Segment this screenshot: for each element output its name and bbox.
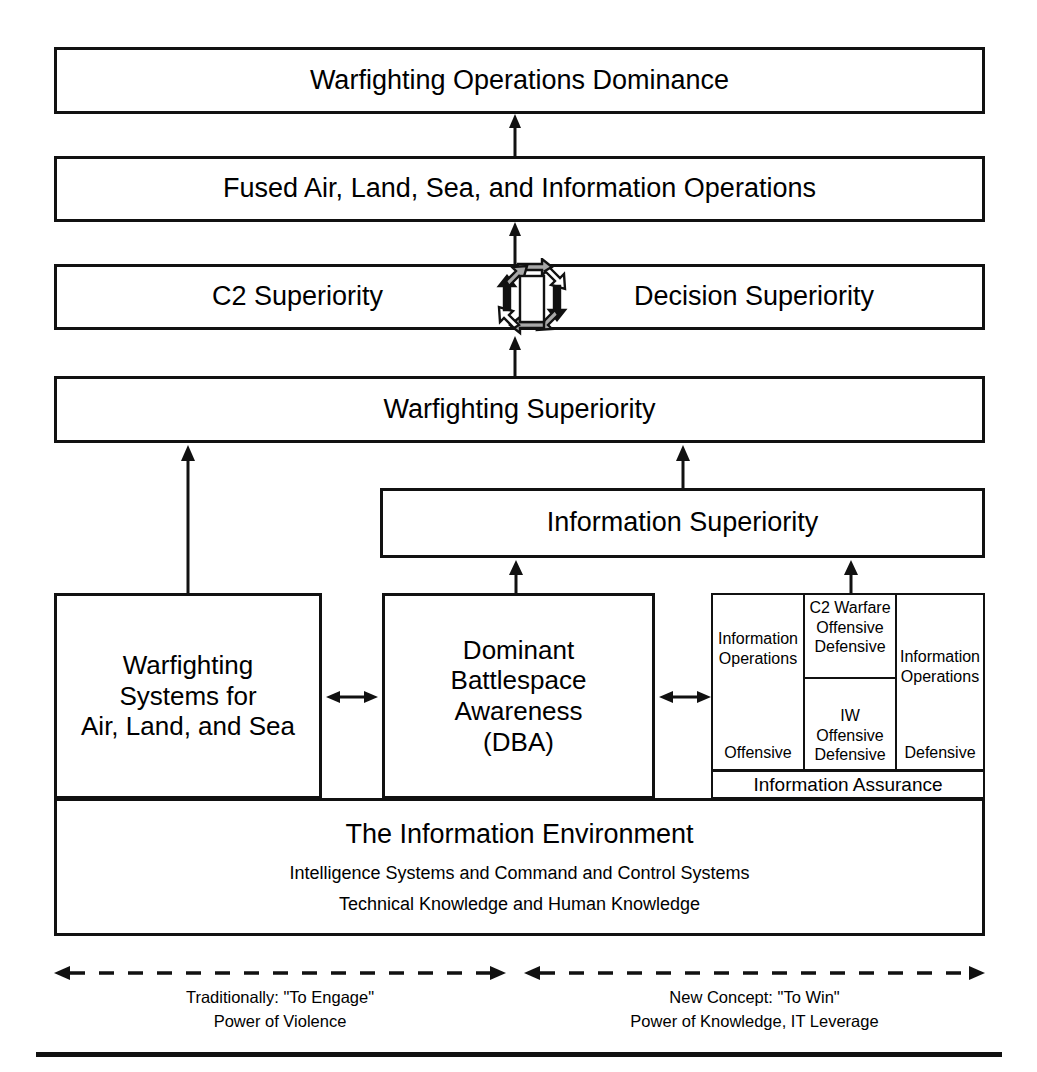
box-warfighting-operations-dominance: Warfighting Operations Dominance: [54, 47, 985, 114]
information-environment-line-1: Intelligence Systems and Command and Con…: [289, 863, 749, 884]
box-dominant-battlespace-awareness: Dominant Battlespace Awareness (DBA): [382, 593, 655, 799]
box-fused-operations: Fused Air, Land, Sea, and Information Op…: [54, 156, 985, 222]
information-environment-text: The Information Environment Intelligence…: [57, 819, 982, 915]
arrow-level4-to-level3: [504, 336, 526, 378]
info-ops-right-top: Information Operations: [897, 647, 983, 686]
box-info-ops-defensive: Information Operations Defensive: [895, 593, 985, 771]
footer-caption-right: New Concept: "To Win" Power of Knowledge…: [524, 986, 985, 1034]
info-ops-left-line-2: Operations: [713, 649, 803, 669]
dba-line-1: Dominant: [463, 635, 574, 666]
c2-warfare-line-2: Offensive: [805, 618, 895, 638]
warfighting-superiority-label: Warfighting Superiority: [383, 394, 655, 426]
arrow-level2-to-level1: [504, 114, 526, 156]
dba-line-2: Battlespace: [451, 665, 587, 696]
information-assurance-label: Information Assurance: [753, 773, 942, 796]
warfighting-systems-line-3: Air, Land, and Sea: [81, 711, 295, 742]
iw-line-3: Defensive: [805, 745, 895, 765]
arrow-info-ops-to-information-superiority: [840, 560, 862, 595]
box-c2-warfare: C2 Warfare Offensive Defensive: [803, 593, 897, 679]
double-headed-arrow-icon-systems-dba: [326, 686, 378, 708]
warfighting-systems-line-2: Systems for: [119, 681, 256, 712]
info-ops-left-line-3: Offensive: [713, 743, 803, 763]
arrow-information-superiority-to-warfighting-superiority: [672, 445, 694, 489]
bottom-divider-rule: [36, 1052, 1002, 1057]
fused-operations-label: Fused Air, Land, Sea, and Information Op…: [223, 173, 816, 205]
circular-feedback-arrows-icon: [492, 258, 572, 340]
double-headed-arrow-icon-dba-infoops: [659, 686, 711, 708]
info-ops-left-line-1: Information: [713, 629, 803, 649]
footer-right-line-2: Power of Knowledge, IT Leverage: [524, 1010, 985, 1034]
info-ops-right-line-1: Information: [897, 647, 983, 667]
dba-line-3: Awareness: [454, 696, 582, 727]
warfighting-operations-dominance-label: Warfighting Operations Dominance: [310, 65, 729, 97]
footer-left-line-1: Traditionally: "To Engage": [54, 986, 506, 1010]
info-ops-right-line-3: Defensive: [897, 743, 983, 763]
box-info-ops-offensive: Information Operations Offensive: [711, 593, 805, 771]
information-environment-title: The Information Environment: [345, 819, 693, 851]
arrow-dba-to-information-superiority: [505, 560, 527, 595]
box-information-superiority: Information Superiority: [380, 488, 985, 558]
decision-superiority-label: Decision Superiority: [634, 281, 874, 313]
arrow-warfighting-systems-to-superiority: [177, 445, 199, 595]
c2-warfare-line-3: Defensive: [805, 637, 895, 657]
iw-line-2: Offensive: [805, 726, 895, 746]
warfighting-systems-line-1: Warfighting: [123, 650, 254, 681]
information-environment-line-2: Technical Knowledge and Human Knowledge: [339, 894, 700, 915]
info-ops-left-top: Information Operations: [713, 629, 803, 668]
box-warfighting-superiority: Warfighting Superiority: [54, 376, 985, 443]
footer-right-line-1: New Concept: "To Win": [524, 986, 985, 1010]
c2-superiority-label: C2 Superiority: [212, 281, 383, 313]
dashed-span-arrow-icon-right: [524, 962, 985, 984]
information-superiority-label: Information Superiority: [547, 507, 819, 539]
dashed-span-arrow-icon-left: [54, 962, 506, 984]
c2-warfare-line-1: C2 Warfare: [805, 598, 895, 618]
box-information-assurance: Information Assurance: [711, 770, 985, 799]
dba-text: Dominant Battlespace Awareness (DBA): [385, 635, 652, 758]
footer-caption-left: Traditionally: "To Engage" Power of Viol…: [54, 986, 506, 1034]
info-ops-right-line-2: Operations: [897, 667, 983, 687]
footer-left-line-2: Power of Violence: [54, 1010, 506, 1034]
dba-line-4: (DBA): [483, 727, 554, 758]
diagram-canvas: Warfighting Operations Dominance Fused A…: [0, 0, 1037, 1072]
box-warfighting-systems: Warfighting Systems for Air, Land, and S…: [54, 593, 322, 799]
box-iw: IW Offensive Defensive: [803, 677, 897, 771]
iw-line-1: IW: [805, 706, 895, 726]
warfighting-systems-text: Warfighting Systems for Air, Land, and S…: [57, 650, 319, 742]
box-information-environment: The Information Environment Intelligence…: [54, 798, 985, 936]
